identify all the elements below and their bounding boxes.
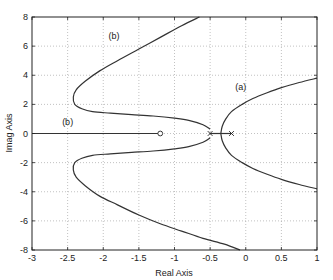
zero-marker (158, 131, 163, 136)
y-tick-label: 0 (23, 129, 28, 139)
y-tick-label: 4 (23, 70, 28, 80)
x-tick-label: -2 (99, 253, 107, 263)
y-tick-label: 8 (23, 12, 28, 22)
x-axis-label: Real Axis (155, 268, 193, 278)
x-tick-label: -2.5 (60, 253, 76, 263)
y-tick-label: 2 (23, 99, 28, 109)
y-tick-label: -4 (20, 187, 28, 197)
branch-annotation: (a) (235, 82, 246, 92)
y-tick-label: -2 (20, 158, 28, 168)
tick-layer: -3-2.5-2-1.5-1-0.500.51-8-6-4-202468 (20, 12, 320, 263)
branch-annotation: (b) (108, 31, 119, 41)
x-tick-label: -1.5 (131, 253, 147, 263)
y-tick-label: -8 (20, 245, 28, 255)
root-locus-chart: (b)(b)(a) -3-2.5-2-1.5-1-0.500.51-8-6-4-… (0, 0, 333, 280)
x-tick-label: -3 (28, 253, 36, 263)
x-tick-label: 1 (314, 253, 319, 263)
x-tick-label: -0.5 (202, 253, 218, 263)
locus-branch-b-upper (73, 17, 210, 129)
y-tick-label: 6 (23, 41, 28, 51)
y-axis-label: Imag Axis (4, 113, 14, 153)
x-tick-label: -1 (170, 253, 178, 263)
annotation-layer: (b)(b)(a) (62, 31, 246, 127)
y-tick-label: -6 (20, 216, 28, 226)
locus-branch-a-lower (221, 134, 317, 189)
locus-branch-b-lower (73, 138, 240, 250)
branch-annotation: (b) (62, 117, 73, 127)
x-tick-label: 0.5 (275, 253, 288, 263)
x-tick-label: 0 (243, 253, 248, 263)
